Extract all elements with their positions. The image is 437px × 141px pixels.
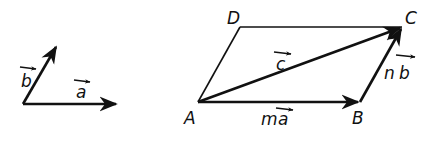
- vector-nb-overarrow-icon: [396, 55, 415, 57]
- edge-AD: [198, 27, 240, 102]
- vector-ma-coef-label: m: [261, 109, 278, 129]
- vector-nb-coef-label: n: [384, 63, 395, 83]
- vertex-A-label: A: [183, 108, 196, 128]
- vector-b-overarrow-icon: [20, 67, 36, 69]
- vertex-C-label: C: [405, 8, 417, 28]
- basis-vectors: b a: [20, 47, 116, 104]
- vector-b-label: b: [21, 71, 32, 91]
- vector-c-arrow: [198, 28, 400, 102]
- vector-ma-vec-label: a: [278, 109, 288, 129]
- vector-c-label: c: [276, 54, 286, 74]
- vector-diagram: b a A B C D c m a n b: [0, 0, 437, 141]
- vertex-B-label: B: [352, 108, 364, 128]
- parallelogram: A B C D c m a n b: [183, 8, 417, 129]
- vector-nb-vec-label: b: [399, 63, 410, 83]
- vertex-D-label: D: [227, 8, 240, 28]
- vector-a-label: a: [76, 82, 86, 102]
